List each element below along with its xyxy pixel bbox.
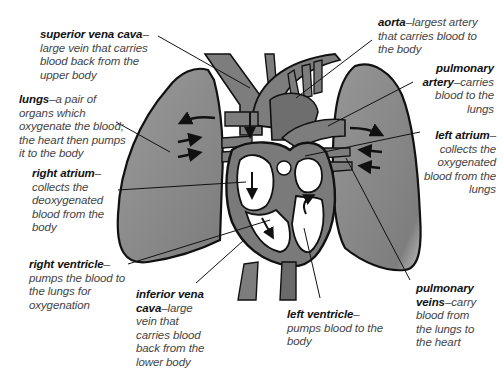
lower-vessels	[238, 262, 296, 300]
heart-lungs-diagram: superior vena cava–large vein that carri…	[0, 0, 503, 370]
label-term: lungs	[19, 93, 49, 105]
label-aorta: aorta–largest artery that carries blood …	[378, 16, 490, 57]
label-lungs: lungs–a pair of organs which oxygenate t…	[19, 93, 131, 161]
label-term: aorta	[378, 16, 406, 28]
left-lung	[118, 69, 223, 263]
right-atrium-chamber	[237, 155, 273, 210]
label-inferior-vena-cava: inferior vena cava–large vein that carri…	[136, 288, 211, 369]
left-atrium-chamber	[295, 158, 322, 192]
label-pulmonary-veins: pulmonary veins–carry blood from the lun…	[416, 282, 484, 350]
label-term: right atrium	[32, 167, 95, 179]
label-term: right ventricle	[29, 258, 104, 270]
label-term: left atrium	[435, 129, 490, 141]
label-superior-vena-cava: superior vena cava–large vein that carri…	[40, 28, 165, 82]
label-term: superior vena cava	[40, 28, 142, 40]
label-term: left ventricle	[287, 308, 353, 320]
label-right-ventricle: right ventricle–pumps the blood to the l…	[29, 258, 129, 312]
label-right-atrium: right atrium–collects the deoxygenated b…	[32, 167, 114, 235]
label-left-atrium: left atrium–collects the oxygenated bloo…	[418, 129, 496, 197]
label-left-ventricle: left ventricle–pumps blood to the body	[287, 308, 392, 349]
label-pulmonary-artery: pulmonary artery–carries blood to the lu…	[412, 62, 494, 116]
